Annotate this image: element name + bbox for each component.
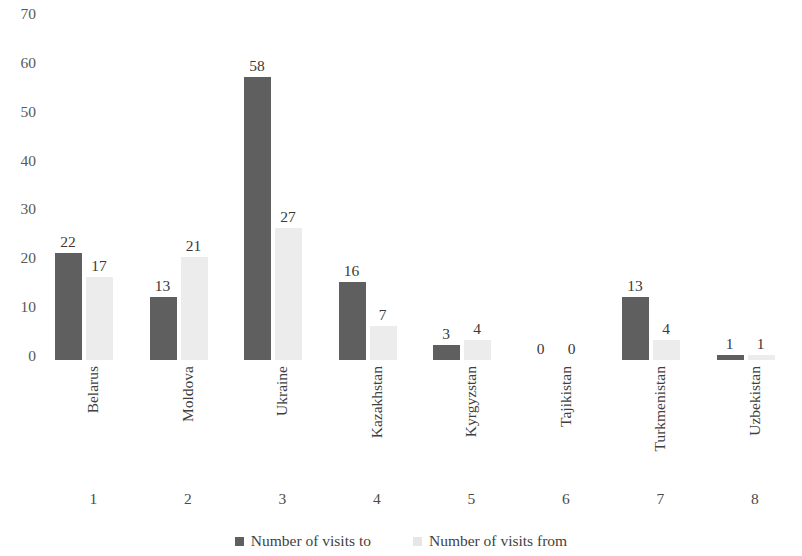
x-axis-index-label: 6 — [519, 490, 614, 508]
bar-value-label: 1 — [741, 336, 781, 352]
x-axis-index-label: 1 — [46, 490, 141, 508]
x-axis-category-label: Turkmenistan — [652, 366, 668, 452]
bar-visits-from[interactable] — [370, 326, 397, 360]
y-axis-tick-label: 20 — [0, 250, 36, 266]
x-axis-category-label: Belarus — [85, 366, 101, 413]
bar-value-label: 21 — [174, 238, 214, 254]
x-axis-index-label: 8 — [708, 490, 802, 508]
x-axis-category-slot: Kazakhstan — [330, 362, 425, 484]
bar-group-bars: 11 — [708, 2, 802, 360]
x-axis-category-slot: Turkmenistan — [613, 362, 708, 484]
x-axis-category-labels: BelarusMoldovaUkraineKazakhstanKyrgyzsta… — [46, 362, 802, 484]
x-axis-index-label: 5 — [424, 490, 519, 508]
bar-group-bars: 1321 — [141, 2, 236, 360]
bar-group-bars: 34 — [424, 2, 519, 360]
x-axis-category-slot: Belarus — [46, 362, 141, 484]
x-axis-index-labels: 12345678 — [46, 490, 802, 512]
bar-visits-to[interactable] — [433, 345, 460, 360]
legend-item[interactable]: Number of visits to — [235, 532, 371, 550]
bar-visits-to[interactable] — [150, 297, 177, 361]
bar-value-label: 22 — [48, 234, 88, 250]
bar-value-label: 58 — [237, 58, 277, 74]
y-axis-tick-label: 70 — [0, 6, 36, 22]
y-axis-tick-label: 40 — [0, 153, 36, 169]
y-axis-tick-label: 50 — [0, 104, 36, 120]
x-axis-category-slot: Tajikistan — [519, 362, 614, 484]
bar-visits-to[interactable] — [55, 253, 82, 360]
bar-group-bars: 00 — [519, 2, 614, 360]
bar-chart: 706050403020100 221713215827167340013411… — [0, 0, 802, 556]
x-axis-category-label: Kyrgyzstan — [463, 366, 479, 437]
x-axis-category-slot: Moldova — [141, 362, 236, 484]
bar-visits-to[interactable] — [339, 282, 366, 360]
x-axis-category-label: Kazakhstan — [369, 366, 385, 438]
y-axis-tick-label: 30 — [0, 201, 36, 217]
bar-value-label: 7 — [363, 307, 403, 323]
plot-area: 221713215827167340013411 — [46, 0, 802, 360]
x-axis-category-slot: Uzbekistan — [708, 362, 802, 484]
bar-value-label: 17 — [79, 258, 119, 274]
bar-group-bars: 134 — [613, 2, 708, 360]
legend-label: Number of visits from — [429, 532, 567, 550]
bar-value-label: 0 — [552, 341, 592, 357]
x-axis-index-label: 2 — [141, 490, 236, 508]
bar-group: 134 — [613, 0, 708, 360]
bar-group-bars: 5827 — [235, 2, 330, 360]
bar-group: 1321 — [141, 0, 236, 360]
bar-group: 00 — [519, 0, 614, 360]
bar-group-bars: 2217 — [46, 2, 141, 360]
bar-group-bars: 167 — [330, 2, 425, 360]
x-axis-index-label: 4 — [330, 490, 425, 508]
bar-group: 5827 — [235, 0, 330, 360]
bar-visits-from[interactable] — [653, 340, 680, 360]
x-axis-category-label: Tajikistan — [558, 366, 574, 427]
x-axis-category-slot: Kyrgyzstan — [424, 362, 519, 484]
legend-label: Number of visits to — [251, 532, 371, 550]
bar-group: 167 — [330, 0, 425, 360]
bar-visits-from[interactable] — [86, 277, 113, 360]
bar-visits-from[interactable] — [748, 355, 775, 360]
bar-value-label: 13 — [615, 278, 655, 294]
bar-value-label: 16 — [332, 263, 372, 279]
bar-visits-from[interactable] — [181, 257, 208, 360]
bar-visits-to[interactable] — [622, 297, 649, 361]
x-axis-category-label: Ukraine — [274, 366, 290, 416]
legend-item[interactable]: Number of visits from — [413, 532, 567, 550]
bar-value-label: 4 — [457, 321, 497, 337]
y-axis-tick-label: 10 — [0, 299, 36, 315]
legend-swatch-icon — [235, 537, 244, 546]
x-axis-category-slot: Ukraine — [235, 362, 330, 484]
legend-swatch-icon — [413, 537, 422, 546]
y-axis-tick-label: 60 — [0, 55, 36, 71]
bar-visits-to[interactable] — [717, 355, 744, 360]
bar-visits-to[interactable] — [244, 77, 271, 360]
x-axis-index-label: 3 — [235, 490, 330, 508]
y-axis-tick-label: 0 — [0, 348, 36, 364]
x-axis-index-label: 7 — [613, 490, 708, 508]
bar-value-label: 27 — [268, 209, 308, 225]
bar-visits-from[interactable] — [275, 228, 302, 360]
x-axis-category-label: Moldova — [180, 366, 196, 422]
bar-group: 11 — [708, 0, 802, 360]
bar-value-label: 13 — [143, 278, 183, 294]
bar-group: 2217 — [46, 0, 141, 360]
chart-legend: Number of visits toNumber of visits from — [0, 528, 802, 554]
x-axis-category-label: Uzbekistan — [747, 366, 763, 436]
bar-group: 34 — [424, 0, 519, 360]
y-axis: 706050403020100 — [0, 0, 46, 370]
bar-visits-from[interactable] — [464, 340, 491, 360]
bar-value-label: 4 — [646, 321, 686, 337]
